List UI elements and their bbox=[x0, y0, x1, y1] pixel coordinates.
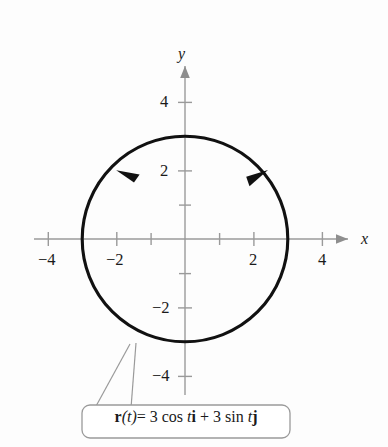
y-tick-label--4: −4 bbox=[152, 368, 170, 385]
callout-leader-left bbox=[95, 344, 130, 408]
equation-label: r(t)= 3 cos ti + 3 sin tj bbox=[82, 409, 290, 425]
equation-vector-r: r bbox=[115, 408, 122, 425]
equation-unit-j: j bbox=[252, 408, 257, 425]
y-axis-label: y bbox=[178, 46, 185, 62]
direction-arrow-upper-right bbox=[246, 170, 268, 186]
y-tick-label--2: −2 bbox=[152, 300, 170, 317]
x-tick-label--2: −2 bbox=[106, 252, 124, 269]
y-tick-label-2: 2 bbox=[160, 163, 168, 180]
x-tick-label-2: 2 bbox=[249, 252, 257, 269]
x-axis-label: x bbox=[361, 231, 368, 247]
callout-leader-right bbox=[131, 343, 136, 408]
plot-canvas bbox=[0, 0, 388, 447]
direction-arrow-upper-left bbox=[116, 170, 139, 182]
x-tick-label-4: 4 bbox=[318, 252, 326, 269]
y-axis-arrowhead bbox=[180, 66, 190, 78]
x-axis-arrowhead bbox=[336, 234, 348, 244]
parametric-circle-figure: x y −4 −2 2 4 4 2 −2 −4 r(t)= 3 cos ti +… bbox=[0, 0, 388, 447]
equation-paren-t: (t) bbox=[122, 408, 137, 425]
y-tick-label-4: 4 bbox=[160, 94, 168, 111]
x-tick-label--4: −4 bbox=[38, 252, 56, 269]
equation-equals-cos: = 3 cos bbox=[137, 408, 187, 425]
equation-plus-sin: + 3 sin bbox=[196, 408, 248, 425]
